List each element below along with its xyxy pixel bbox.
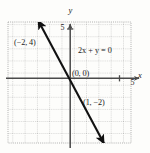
x-axis-label: x bbox=[138, 71, 142, 80]
y-axis-label: y bbox=[69, 6, 73, 15]
graph-figure: y x 5 5 2x + y = 0 (−2, 4) (0, 0) (1, −2… bbox=[0, 0, 150, 153]
point-label-1-neg2: (1, −2) bbox=[83, 99, 105, 107]
x-tick-label-5: 5 bbox=[131, 79, 135, 87]
equation-text: 2x + y = 0 bbox=[78, 46, 112, 55]
y-tick-label-5: 5 bbox=[61, 24, 65, 32]
point-label-neg2-4: (−2, 4) bbox=[14, 39, 36, 47]
point-label-origin: (0, 0) bbox=[72, 70, 89, 78]
equation-label: 2x + y = 0 bbox=[78, 47, 112, 55]
